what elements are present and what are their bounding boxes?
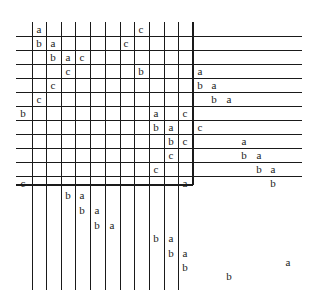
grid-vertical-line xyxy=(149,22,150,290)
cell-label: c xyxy=(180,108,190,119)
cell-label: a xyxy=(180,178,190,189)
cell-label: b xyxy=(195,80,205,91)
grid-vertical-line xyxy=(134,22,135,290)
grid-vertical-line xyxy=(120,22,121,290)
cell-label: b xyxy=(166,248,176,259)
cell-label: b xyxy=(18,108,28,119)
cell-label: b xyxy=(268,178,278,189)
cell-label: b xyxy=(48,52,58,63)
cell-label: a xyxy=(209,80,219,91)
cell-label: c xyxy=(63,66,73,77)
grid-horizontal-line xyxy=(16,120,302,121)
cell-label: b xyxy=(34,38,44,49)
cell-label: c xyxy=(34,94,44,105)
grid-vertical-line xyxy=(61,22,62,290)
grid-vertical-line xyxy=(32,22,33,290)
grid-horizontal-line xyxy=(16,176,302,177)
cell-label: a xyxy=(283,257,293,268)
cell-label: c xyxy=(195,122,205,133)
grid-horizontal-line xyxy=(16,78,302,79)
cell-label: b xyxy=(224,271,234,282)
grid-vertical-line xyxy=(75,22,76,290)
cell-label: c xyxy=(136,24,146,35)
grid-horizontal-line xyxy=(16,64,302,65)
cell-label: c xyxy=(180,136,190,147)
cell-label: b xyxy=(136,66,146,77)
grid-horizontal-line xyxy=(16,92,302,93)
grid-vertical-line xyxy=(105,22,106,290)
cell-label: b xyxy=(151,122,161,133)
cell-label: b xyxy=(239,150,249,161)
grid-horizontal-line xyxy=(16,134,302,135)
grid-horizontal-line xyxy=(16,184,193,186)
cell-label: a xyxy=(254,150,264,161)
grid-horizontal-line xyxy=(16,36,302,37)
cell-label: a xyxy=(48,38,58,49)
cell-label: a xyxy=(239,136,249,147)
cell-label: a xyxy=(224,94,234,105)
cell-label: c xyxy=(48,80,58,91)
grid-vertical-line xyxy=(46,22,47,290)
cell-label: b xyxy=(92,220,102,231)
grid-horizontal-line xyxy=(16,106,302,107)
grid-vertical-line xyxy=(164,22,165,290)
grid-vertical-line xyxy=(178,22,179,290)
cell-label: a xyxy=(34,24,44,35)
cell-label: c xyxy=(151,164,161,175)
cell-label: c xyxy=(121,38,131,49)
cell-label: b xyxy=(63,190,73,201)
cell-label: a xyxy=(166,233,176,244)
cell-label: a xyxy=(151,108,161,119)
cell-label: a xyxy=(180,248,190,259)
cell-label: c xyxy=(77,52,87,63)
cell-label: b xyxy=(180,262,190,273)
cell-label: a xyxy=(77,190,87,201)
cell-label: b xyxy=(151,233,161,244)
cell-label: b xyxy=(166,136,176,147)
cell-label: a xyxy=(166,122,176,133)
cell-label: c xyxy=(18,178,28,189)
cell-label: a xyxy=(268,164,278,175)
grid-vertical-line xyxy=(90,22,91,290)
grid-horizontal-line xyxy=(16,50,302,51)
cell-label: a xyxy=(195,66,205,77)
cell-label: b xyxy=(254,164,264,175)
cell-label: c xyxy=(166,150,176,161)
cell-label: b xyxy=(77,205,87,216)
cell-label: b xyxy=(209,94,219,105)
cell-label: a xyxy=(92,205,102,216)
cell-label: a xyxy=(63,52,73,63)
cell-label: a xyxy=(107,220,117,231)
